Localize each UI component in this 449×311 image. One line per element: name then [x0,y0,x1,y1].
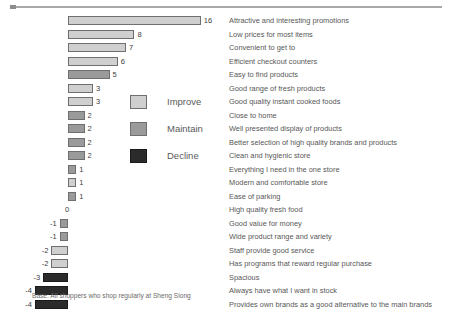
category-label: Clean and hygienic store [229,150,310,162]
bar-improve [51,246,68,255]
chart-row: 2Better selection of high quality brands… [0,136,449,150]
chart-row: -4Provides own brands as a good alternat… [0,298,449,311]
bar-zone: -2 [0,244,222,258]
category-label: Ease of parking [229,191,280,203]
category-label: Provides own brands as a good alternativ… [229,299,432,311]
legend-label: Decline [167,149,199,163]
bar-value-label: 1 [79,191,83,202]
bar-value-label: -1 [50,231,57,242]
chart-row: 8Low prices for most items [0,28,449,42]
bar-value-label: 2 [88,110,92,121]
chart-row: 5Easy to find products [0,68,449,82]
diverging-bar-chart: 16Attractive and interesting promotions8… [0,14,449,282]
chart-row: -2Staff provide good service [0,244,449,258]
bar-value-label: -3 [33,272,40,283]
category-label: Always have what I want in stock [229,285,337,297]
bar-zone: 16 [0,14,222,28]
category-label: Better selection of high quality brands … [229,137,397,149]
bar-maintain [68,111,85,120]
bar-value-label: -2 [42,245,49,256]
bar-value-label: 2 [88,123,92,134]
bar-decline [35,300,68,309]
bar-maintain [60,232,68,241]
chart-row: 0High quality fresh food [0,203,449,217]
legend-swatch-icon [130,149,147,163]
bar-zone: 2 [0,109,222,123]
bar-zone: 7 [0,41,222,55]
category-label: Staff provide good service [229,245,314,257]
bar-decline [43,273,68,282]
bar-zone: 8 [0,28,222,42]
chart-row: 2Clean and hygienic store [0,149,449,163]
bar-value-label: 6 [121,56,125,67]
bar-zone: 3 [0,82,222,96]
bar-improve [68,57,118,66]
chart-row: 1Modern and comfortable store [0,176,449,190]
bar-zone: -2 [0,257,222,271]
bar-zone: 2 [0,136,222,150]
category-label: Good range of fresh products [229,83,325,95]
chart-row: 3Good range of fresh products [0,82,449,96]
bar-value-label: 0 [65,204,69,215]
bar-value-label: -4 [25,299,32,310]
bar-improve [68,178,76,187]
category-label: Convenient to get to [229,42,295,54]
bar-value-label: 7 [129,42,133,53]
chart-row: 2Well presented display of products [0,122,449,136]
bar-maintain [68,138,85,147]
category-label: Easy to find products [229,69,298,81]
bar-value-label: 16 [204,15,212,26]
bar-maintain [68,192,76,201]
bar-value-label: 2 [88,137,92,148]
bar-zone: 1 [0,163,222,177]
bar-zone: 1 [0,190,222,204]
bar-value-label: 8 [137,29,141,40]
category-label: Attractive and interesting promotions [229,15,349,27]
bar-improve [68,97,93,106]
chart-row: 3Good quality instant cooked foods [0,95,449,109]
header-divider [10,6,442,8]
bar-value-label: 1 [79,164,83,175]
bar-zone: -4 [0,298,222,311]
chart-row: 6Efficient checkout counters [0,55,449,69]
bar-improve [68,84,93,93]
category-label: Efficient checkout counters [229,56,317,68]
chart-row: -1Good value for money [0,217,449,231]
category-label: Spacious [229,272,259,284]
bar-value-label: 1 [79,177,83,188]
bar-maintain [60,219,68,228]
chart-row: 1Everything I need in the one store [0,163,449,177]
category-label: Good quality instant cooked foods [229,96,340,108]
header-divider-cap [10,5,16,9]
bar-zone: 5 [0,68,222,82]
category-label: Low prices for most items [229,29,313,41]
bar-value-label: 3 [96,83,100,94]
category-label: Everything I need in the one store [229,164,340,176]
category-label: Has programs that reward regular purchas… [229,258,372,270]
bar-improve [68,43,126,52]
category-label: Good value for money [229,218,302,230]
chart-row: 16Attractive and interesting promotions [0,14,449,28]
bar-value-label: 3 [96,96,100,107]
chart-row: -3Spacious [0,271,449,285]
bar-maintain [68,165,76,174]
bar-zone: 6 [0,55,222,69]
category-label: Close to home [229,110,277,122]
category-label: Well presented display of products [229,123,342,135]
bar-improve [51,259,68,268]
bar-improve [68,30,134,39]
bar-zone: 0 [0,203,222,217]
legend-label: Maintain [167,122,203,136]
bar-maintain [68,124,85,133]
chart-footnote: Base: All shoppers who shop regularly at… [32,292,191,299]
category-label: High quality fresh food [229,204,303,216]
bar-zone: 1 [0,176,222,190]
chart-row: -2Has programs that reward regular purch… [0,257,449,271]
chart-row: -1Wide product range and variety [0,230,449,244]
legend-label: Improve [167,95,201,109]
bar-value-label: 5 [113,69,117,80]
chart-row: 2Close to home [0,109,449,123]
chart-row: 1Ease of parking [0,190,449,204]
bar-zone: -3 [0,271,222,285]
bar-zone: -1 [0,230,222,244]
